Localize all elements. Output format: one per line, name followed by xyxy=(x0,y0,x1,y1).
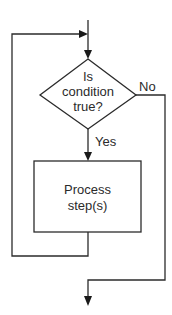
decision-line: condition xyxy=(48,84,128,99)
process-line: Process xyxy=(34,182,141,198)
decision-label: Is condition true? xyxy=(48,69,128,114)
process-label: Process step(s) xyxy=(34,182,141,214)
no-branch-label: No xyxy=(139,79,156,95)
arrow-down-icon xyxy=(84,50,92,59)
process-line: step(s) xyxy=(34,198,141,214)
decision-line: Is xyxy=(48,69,128,84)
decision-line: true? xyxy=(48,99,128,114)
arrow-down-icon xyxy=(84,152,92,161)
flowchart-svg xyxy=(0,0,172,315)
yes-branch-label: Yes xyxy=(95,134,116,150)
flowchart-canvas: Is condition true? Process step(s) No Ye… xyxy=(0,0,172,315)
arrow-down-icon xyxy=(84,296,92,306)
arrow-right-icon xyxy=(79,30,88,38)
